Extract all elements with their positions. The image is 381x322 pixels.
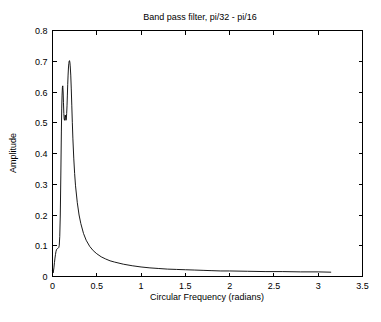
x-axis-label: Circular Frequency (radians)	[150, 292, 264, 302]
x-tick-label: 0	[50, 281, 55, 291]
chart-plot: Band pass filter, pi/32 - pi/16 00.511.5…	[0, 0, 381, 322]
y-tick-label: 0.7	[35, 57, 48, 67]
y-tick-label: 0.1	[35, 241, 48, 251]
figure-background	[0, 0, 381, 322]
x-tick-label: 3	[316, 281, 321, 291]
y-tick-label: 0.8	[35, 26, 48, 36]
x-tick-label: 2.5	[268, 281, 281, 291]
y-tick-label: 0.3	[35, 180, 48, 190]
figure-container: Band pass filter, pi/32 - pi/16 00.511.5…	[0, 0, 381, 322]
y-tick-label: 0.5	[35, 118, 48, 128]
y-tick-label: 0	[42, 272, 47, 282]
x-tick-label: 3.5	[356, 281, 369, 291]
y-tick-label: 0.6	[35, 88, 48, 98]
x-tick-label: 1.5	[179, 281, 192, 291]
y-tick-labels: 00.10.20.30.40.50.60.70.8	[35, 26, 48, 282]
y-axis-label: Amplitude	[8, 133, 18, 173]
y-tick-label: 0.2	[35, 211, 48, 221]
chart-title: Band pass filter, pi/32 - pi/16	[143, 12, 257, 22]
y-tick-label: 0.4	[35, 149, 48, 159]
x-tick-label: 0.5	[91, 281, 104, 291]
x-tick-label: 1	[139, 281, 144, 291]
x-tick-label: 2	[227, 281, 232, 291]
